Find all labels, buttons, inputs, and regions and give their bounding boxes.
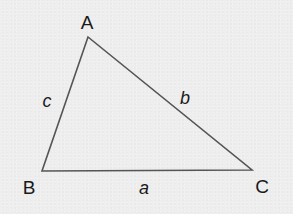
triangle-shape [42,37,252,171]
triangle-svg: A B C a b c [0,0,293,214]
vertex-label-c: C [255,176,269,197]
side-label-b: b [180,88,190,108]
triangle-diagram: A B C a b c [0,0,293,214]
vertex-label-a: A [81,12,94,33]
side-label-a: a [139,178,149,198]
side-label-c: c [43,91,52,111]
vertex-label-b: B [23,177,36,198]
